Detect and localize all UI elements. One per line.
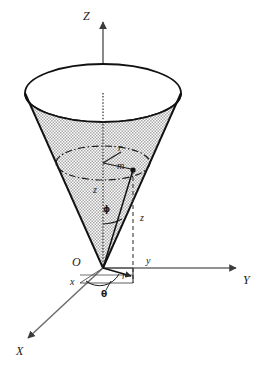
label-r-upper: r <box>118 143 122 153</box>
label-phi: ϕ <box>103 205 110 214</box>
label-theta: θ <box>101 290 107 299</box>
axis-label-y: Y <box>243 274 250 286</box>
label-r-base: r <box>122 271 126 281</box>
cone-body <box>25 64 181 268</box>
axis-label-x: X <box>16 345 23 357</box>
x-axis-line <box>28 268 103 338</box>
label-x-small: x <box>70 277 74 287</box>
label-z-drop-segment: z <box>140 213 144 223</box>
base-edge-left <box>80 268 103 283</box>
figure-canvas: Z Y X O x y r θ ϕ z z r m <box>0 0 264 372</box>
axis-label-z: Z <box>83 10 90 22</box>
label-y-small: y <box>146 256 150 266</box>
label-z-axis-segment: z <box>93 185 97 195</box>
label-mass-point-m: m <box>117 161 124 171</box>
coordinate-cone-diagram <box>0 0 264 372</box>
label-origin: O <box>72 256 81 268</box>
